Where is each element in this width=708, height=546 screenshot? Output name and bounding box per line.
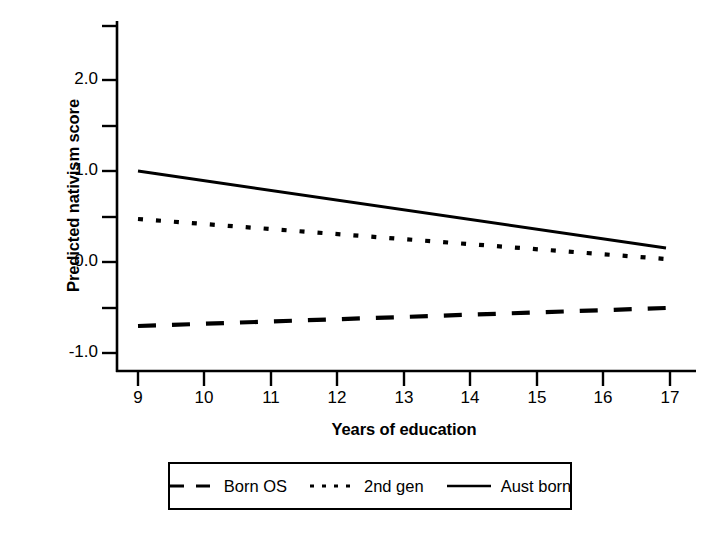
x-tick-label: 14 bbox=[446, 388, 494, 407]
x-axis-title: Years of education bbox=[138, 420, 670, 439]
chart-figure: Predicted nativism score bbox=[0, 0, 708, 546]
legend-entry-born-os: Born OS bbox=[169, 478, 287, 495]
y-tick-label: 0.0 bbox=[34, 252, 98, 269]
x-tick-label: 13 bbox=[380, 388, 428, 407]
x-tick-label: 10 bbox=[180, 388, 228, 407]
legend-swatch-dashed-icon bbox=[169, 480, 215, 492]
x-axis-ticks bbox=[138, 371, 670, 386]
series-line-born-os bbox=[138, 308, 666, 326]
x-tick-label: 9 bbox=[114, 388, 162, 407]
legend-entry-aust-born: Aust born bbox=[446, 478, 572, 495]
y-tick-label: -1.0 bbox=[34, 343, 98, 360]
legend-label: 2nd gen bbox=[364, 478, 424, 495]
legend-label: Born OS bbox=[224, 478, 287, 495]
x-tick-label: 15 bbox=[513, 388, 561, 407]
x-tick-label: 17 bbox=[646, 388, 694, 407]
x-tick-label: 12 bbox=[313, 388, 361, 407]
legend-swatch-dotted-icon bbox=[309, 480, 355, 492]
x-tick-label: 16 bbox=[579, 388, 627, 407]
y-tick-label: 1.0 bbox=[34, 161, 98, 178]
legend-entry-2nd-gen: 2nd gen bbox=[309, 478, 424, 495]
y-axis-ticks bbox=[102, 26, 117, 353]
legend-label: Aust born bbox=[501, 478, 572, 495]
x-tick-label: 11 bbox=[247, 388, 295, 407]
series-line-2nd-gen bbox=[138, 219, 666, 259]
chart-legend: Born OS 2nd gen Aust born bbox=[168, 462, 572, 510]
legend-swatch-solid-icon bbox=[446, 480, 492, 492]
y-tick-label: 2.0 bbox=[34, 70, 98, 87]
series-line-aust-born bbox=[138, 171, 666, 248]
legend-entries: Born OS 2nd gen Aust born bbox=[170, 464, 570, 508]
